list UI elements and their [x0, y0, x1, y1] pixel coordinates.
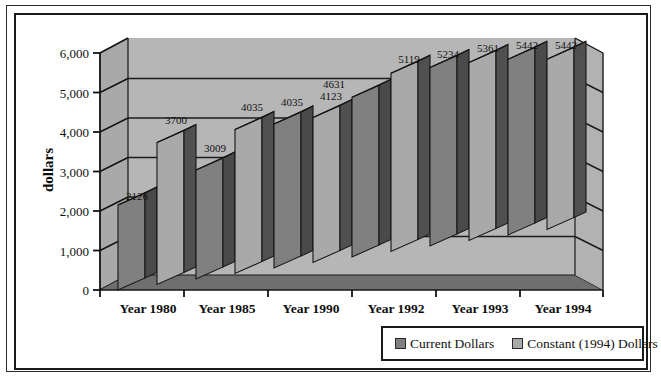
y-axis [93, 53, 100, 290]
y-tick-label-4000: 4,000 [60, 125, 89, 140]
legend-entry-constant-dollars[interactable]: Constant (1994) Dollars [512, 336, 658, 352]
bar-1980-constant [157, 125, 196, 285]
value-label-1980-current: 2126 [126, 190, 149, 202]
value-label-1985-constant: 4035 [241, 101, 264, 113]
y-tick-label-0: 0 [83, 283, 90, 298]
bar-1990-current [274, 106, 313, 268]
x-label-year-1990: Year 1990 [282, 301, 339, 316]
y-tick-label-3000: 3,000 [60, 165, 89, 180]
value-label-1990-current: 4035 [281, 96, 304, 108]
bar-1990-constant [313, 99, 352, 262]
value-label-1990-constant: 4123 [320, 90, 343, 102]
value-label-1980-constant: 3700 [165, 114, 188, 126]
value-label-1993-constant: 5361 [477, 42, 499, 54]
bar-chart: 6,000 5,000 4,000 3,000 2,000 1,000 0 do… [0, 0, 661, 380]
y-tick-label-1000: 1,000 [60, 244, 89, 259]
bar-1992-constant [391, 55, 430, 251]
bar-1985-current [196, 152, 235, 279]
value-label-1985-current: 3009 [204, 142, 227, 154]
x-label-year-1994: Year 1994 [534, 301, 591, 316]
value-label-1994-constant: 5442 [555, 39, 577, 51]
bar-1985-constant [235, 111, 274, 273]
value-label-1992-current: 4631 [323, 78, 345, 90]
legend-label-current-dollars: Current Dollars [410, 336, 494, 352]
value-label-1992-constant: 5119 [398, 53, 420, 65]
y-tick-label-2000: 2,000 [60, 204, 89, 219]
y-tick-label-6000: 6,000 [60, 46, 89, 61]
legend-swatch-constant-dollars [512, 338, 523, 349]
bar-1994-constant [547, 41, 586, 229]
bar-1993-current [430, 50, 469, 246]
y-axis-title: dollars [40, 148, 56, 192]
x-label-year-1992: Year 1992 [367, 301, 424, 316]
x-label-year-1993: Year 1993 [451, 301, 508, 316]
y-tick-label-5000: 5,000 [60, 86, 89, 101]
bar-1980-current [118, 187, 157, 290]
bar-1994-current [508, 41, 547, 235]
legend-label-constant-dollars: Constant (1994) Dollars [527, 336, 658, 352]
x-axis [100, 290, 603, 297]
chart-canvas: 6,000 5,000 4,000 3,000 2,000 1,000 0 do… [0, 0, 661, 380]
value-label-1994-current: 5442 [516, 39, 538, 51]
x-label-year-1985: Year 1985 [198, 301, 255, 316]
bar-1993-constant [469, 45, 508, 241]
x-label-year-1980: Year 1980 [119, 301, 176, 316]
legend-swatch-current-dollars [395, 338, 406, 349]
bar-1992-current [352, 79, 391, 257]
chart-legend: Current Dollars Constant (1994) Dollars [381, 326, 644, 361]
legend-entry-current-dollars[interactable]: Current Dollars [395, 336, 494, 352]
value-label-1993-current: 5234 [437, 48, 460, 60]
plot-floor [100, 275, 603, 290]
